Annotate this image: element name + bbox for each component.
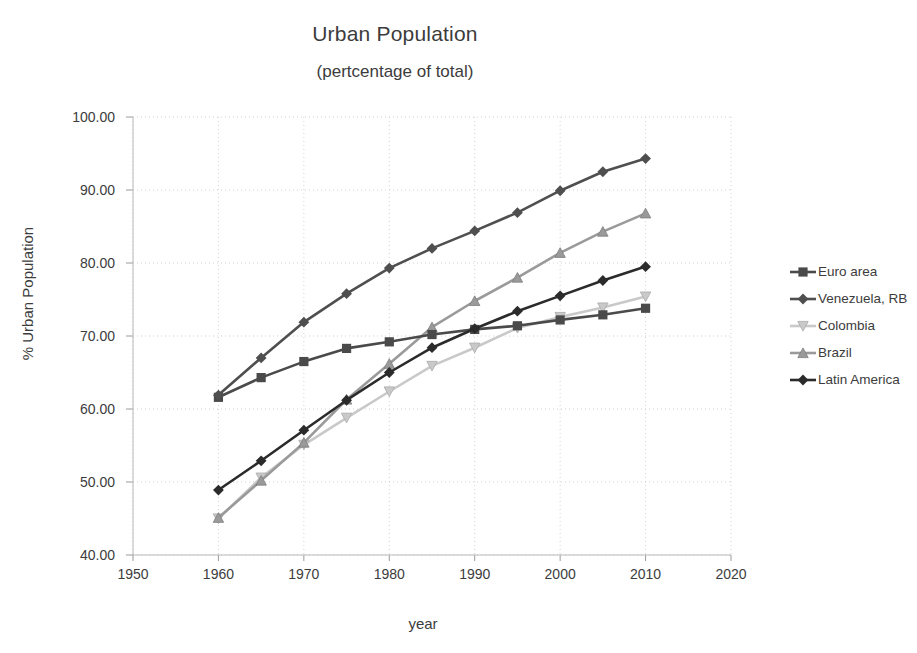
data-point-marker [597,275,608,286]
data-point-marker [512,207,523,218]
data-point-marker [469,225,480,236]
legend-item-venezuela-rb[interactable]: Venezuela, RB [790,285,917,312]
data-point-marker [257,373,266,382]
data-point-marker [427,243,438,254]
data-point-marker [555,248,565,258]
data-point-marker [342,344,351,353]
legend-marker-icon [790,346,816,360]
data-point-marker [512,306,523,317]
legend-item-label: Colombia [816,318,875,333]
legend-marker-icon [790,319,816,333]
chart-legend: Euro areaVenezuela, RBColombiaBrazilLati… [790,258,917,393]
data-point-marker [555,185,566,196]
data-point-marker [385,337,394,346]
series-line [218,267,645,490]
data-point-marker [597,166,608,177]
series-latin-america [213,261,651,495]
legend-item-latin-america[interactable]: Latin America [790,366,917,393]
legend-item-label: Venezuela, RB [816,291,907,306]
legend-item-label: Euro area [816,264,877,279]
data-point-marker [470,296,480,306]
data-point-marker [427,330,436,339]
data-point-marker [512,273,522,283]
legend-marker-icon [790,373,816,387]
series-line [218,159,645,396]
data-point-marker [798,374,809,385]
data-point-marker [641,304,650,313]
data-point-marker [640,153,651,164]
data-point-marker [427,342,438,353]
data-point-marker [640,208,650,218]
legend-item-colombia[interactable]: Colombia [790,312,917,339]
legend-item-label: Brazil [816,345,852,360]
legend-marker-icon [790,292,816,306]
data-point-marker [513,321,522,330]
legend-item-label: Latin America [816,372,900,387]
chart-container: Urban Population (pertcentage of total) … [0,0,917,653]
legend-item-brazil[interactable]: Brazil [790,339,917,366]
legend-item-euro-area[interactable]: Euro area [790,258,917,285]
data-point-marker [598,310,607,319]
data-point-marker [299,357,308,366]
data-point-marker [798,293,809,304]
data-point-marker [555,290,566,301]
data-point-marker [556,315,565,324]
legend-marker-icon [790,265,816,279]
data-point-marker [798,267,807,276]
plot-area [0,0,917,653]
